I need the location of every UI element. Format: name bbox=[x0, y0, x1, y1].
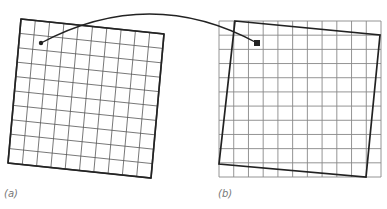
grid-a-hline bbox=[12, 120, 155, 135]
grid-a-vline bbox=[122, 31, 135, 175]
grid-a-vline bbox=[137, 33, 150, 177]
grid-a-hline bbox=[11, 134, 154, 149]
panel-a-label: (a) bbox=[4, 188, 18, 199]
grid-a-vline bbox=[94, 28, 107, 172]
diagram-canvas bbox=[0, 0, 387, 209]
grid-a-hline bbox=[15, 91, 158, 106]
warped-boundary-overlay bbox=[219, 21, 380, 177]
panel-b-label: (b) bbox=[218, 188, 232, 199]
grid-a-hline bbox=[9, 149, 152, 164]
grid-a-vline bbox=[108, 30, 121, 174]
grid-a-hline bbox=[13, 105, 156, 120]
